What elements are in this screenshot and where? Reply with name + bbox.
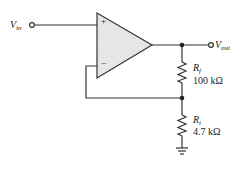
resistor-rf	[178, 62, 186, 83]
resistor-ri	[178, 115, 186, 136]
output-node	[180, 43, 185, 48]
output-terminal	[209, 43, 214, 48]
minus-input-label: −	[101, 59, 106, 68]
input-terminal	[30, 23, 35, 28]
rf-value: 100 kΩ	[193, 76, 223, 86]
rf-label: Rf	[193, 63, 201, 75]
ri-value: 4.7 kΩ	[193, 127, 220, 137]
vout-label: Vout	[215, 40, 230, 52]
plus-input-label: +	[101, 17, 106, 26]
vin-label: Vin	[10, 20, 22, 32]
feedback-node	[180, 96, 185, 101]
